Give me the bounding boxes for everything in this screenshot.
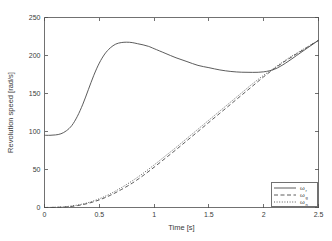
- y-axis-label: Revolution speed [rad/s]: [6, 72, 15, 153]
- x-tick-label: 2: [262, 211, 266, 218]
- x-tick-label: 0.5: [94, 211, 104, 218]
- y-tick-label: 250: [29, 14, 41, 21]
- legend: ωrωgωn: [271, 182, 317, 207]
- y-tick-label: 0: [37, 204, 41, 211]
- figure-container: 00.511.522.5050100150200250 Time [s]Revo…: [0, 0, 332, 241]
- plot-border: [45, 18, 319, 208]
- y-tick-label: 200: [29, 52, 41, 59]
- tick-marks-group: [45, 18, 319, 208]
- legend-label-omega_m: ω: [300, 199, 305, 205]
- x-tick-label: 0: [43, 211, 47, 218]
- y-tick-label: 50: [33, 166, 41, 173]
- x-tick-label: 1.5: [204, 211, 214, 218]
- chart-canvas: 00.511.522.5050100150200250 Time [s]Revo…: [0, 0, 332, 241]
- x-axis-label: Time [s]: [168, 223, 194, 232]
- y-tick-label: 100: [29, 128, 41, 135]
- legend-box: [271, 182, 317, 206]
- legend-label-omega_s: ω: [300, 192, 305, 198]
- axes-group: [45, 18, 319, 208]
- legend-label-omega_r: ω: [300, 185, 305, 191]
- series-line-omega_r: [45, 40, 319, 135]
- x-tick-label: 2.5: [314, 211, 324, 218]
- y-tick-label: 150: [29, 90, 41, 97]
- x-tick-label: 1: [152, 211, 156, 218]
